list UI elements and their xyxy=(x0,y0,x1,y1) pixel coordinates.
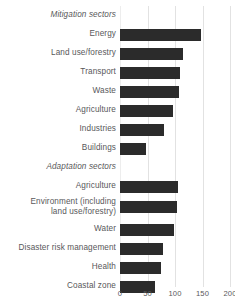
section-heading-label: Adaptation sectors xyxy=(0,162,116,172)
x-axis-tick-label: 150 xyxy=(196,289,209,298)
category-label: Environment (including land use/forestry… xyxy=(0,197,116,216)
category-label: Buildings xyxy=(0,143,116,153)
bar xyxy=(120,86,179,98)
bar-row: Industries xyxy=(0,120,235,139)
section-heading-row: Mitigation sectors xyxy=(0,6,235,25)
bar xyxy=(120,201,177,213)
category-label: Waste xyxy=(0,86,116,96)
category-label: Health xyxy=(0,262,116,272)
category-label: Water xyxy=(0,224,116,234)
section-heading-label: Mitigation sectors xyxy=(0,10,116,20)
category-label: Land use/forestry xyxy=(0,48,116,58)
bar xyxy=(120,143,146,155)
bar-row: Buildings xyxy=(0,139,235,158)
bar xyxy=(120,243,163,255)
category-label: Energy xyxy=(0,29,116,39)
bar-row: Energy xyxy=(0,25,235,44)
bar-rows: Mitigation sectorsEnergyLand use/forestr… xyxy=(0,6,235,296)
bar xyxy=(120,124,164,136)
bar-row: Environment (including land use/forestry… xyxy=(0,196,235,220)
bar xyxy=(120,105,173,117)
horizontal-bar-chart: Mitigation sectorsEnergyLand use/forestr… xyxy=(0,0,235,306)
x-axis-tick-label: 0 xyxy=(118,289,122,298)
bar xyxy=(120,29,201,41)
bar xyxy=(120,224,174,236)
bar xyxy=(120,262,161,274)
x-axis-tick-label: 100 xyxy=(169,289,182,298)
x-axis: 050100150200 xyxy=(0,287,235,306)
bar-row: Disaster risk management xyxy=(0,239,235,258)
section-heading-row: Adaptation sectors xyxy=(0,158,235,177)
bar xyxy=(120,67,180,79)
category-label: Transport xyxy=(0,67,116,77)
x-axis-tick-label: 50 xyxy=(143,289,152,298)
bar-row: Transport xyxy=(0,63,235,82)
category-label: Industries xyxy=(0,124,116,134)
bar-row: Health xyxy=(0,258,235,277)
bar xyxy=(120,181,178,193)
category-label: Agriculture xyxy=(0,105,116,115)
bar-row: Waste xyxy=(0,82,235,101)
bar-row: Land use/forestry xyxy=(0,44,235,63)
bar xyxy=(120,48,183,60)
bar-row: Agriculture xyxy=(0,177,235,196)
category-label: Agriculture xyxy=(0,181,116,191)
bar-row: Water xyxy=(0,220,235,239)
x-axis-tick-label: 200 xyxy=(224,289,235,298)
bar-row: Agriculture xyxy=(0,101,235,120)
category-label: Disaster risk management xyxy=(0,243,116,253)
